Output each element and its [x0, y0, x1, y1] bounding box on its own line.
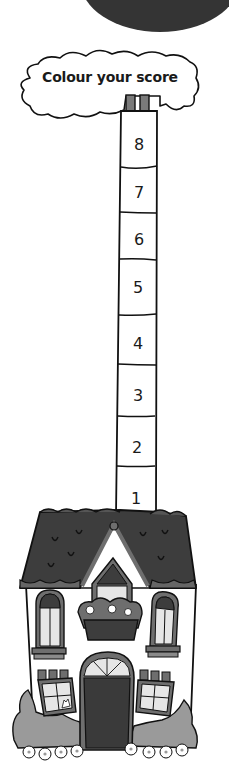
score-chart-illustration: Colour your score 8 7 6 5 4 3 2 1 [0, 0, 229, 772]
score-step-3[interactable]: 3 [133, 386, 143, 405]
score-step-2[interactable]: 2 [132, 438, 142, 457]
chimney-pots [126, 95, 149, 111]
left-upper-window [32, 590, 66, 659]
front-door [80, 652, 134, 750]
flower-box [78, 598, 142, 640]
score-step-4[interactable]: 4 [133, 334, 143, 353]
title-cloud: Colour your score [21, 50, 198, 118]
score-step-1[interactable]: 1 [131, 489, 141, 508]
title-text: Colour your score [42, 69, 178, 85]
score-step-7[interactable]: 7 [134, 183, 144, 202]
score-step-5[interactable]: 5 [133, 278, 143, 297]
dark-circle-decoration [80, 0, 229, 32]
right-lower-window [136, 670, 174, 716]
score-step-8[interactable]: 8 [134, 135, 144, 154]
house-illustration [13, 509, 197, 760]
score-step-6[interactable]: 6 [134, 230, 144, 249]
